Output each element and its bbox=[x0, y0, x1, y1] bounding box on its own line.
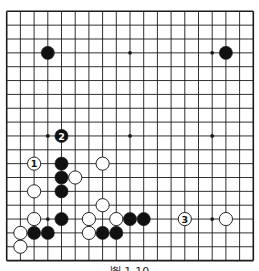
star-point bbox=[128, 134, 132, 138]
black-stone bbox=[219, 46, 232, 59]
black-stone bbox=[110, 226, 123, 239]
white-stone bbox=[219, 212, 232, 225]
black-stone bbox=[27, 226, 40, 239]
go-board: 213 bbox=[0, 0, 259, 265]
white-stone bbox=[96, 199, 109, 212]
white-stone-move-3: 3 bbox=[178, 212, 191, 225]
black-stone bbox=[123, 212, 136, 225]
black-stone bbox=[55, 185, 68, 198]
white-stone-move-1: 1 bbox=[27, 157, 40, 170]
white-stone bbox=[82, 226, 95, 239]
black-stone bbox=[137, 212, 150, 225]
black-stone bbox=[55, 157, 68, 170]
move-number: 3 bbox=[181, 214, 188, 225]
white-stone bbox=[110, 212, 123, 225]
black-stone bbox=[41, 46, 54, 59]
white-stone bbox=[27, 185, 40, 198]
star-point bbox=[210, 134, 214, 138]
white-stone bbox=[69, 171, 82, 184]
star-point bbox=[210, 51, 214, 55]
white-stone bbox=[82, 212, 95, 225]
white-stone bbox=[14, 226, 27, 239]
white-stone bbox=[96, 157, 109, 170]
move-number: 1 bbox=[31, 158, 38, 169]
star-point bbox=[128, 51, 132, 55]
black-stone bbox=[96, 226, 109, 239]
star-point bbox=[46, 217, 50, 221]
white-stone bbox=[27, 212, 40, 225]
star-point bbox=[46, 134, 50, 138]
star-point bbox=[210, 217, 214, 221]
move-number: 2 bbox=[58, 131, 65, 142]
figure-caption: 图 1-10 bbox=[0, 266, 259, 271]
white-stone bbox=[14, 240, 27, 253]
black-stone bbox=[55, 212, 68, 225]
black-stone-move-2: 2 bbox=[55, 129, 68, 142]
black-stone bbox=[41, 226, 54, 239]
black-stone bbox=[55, 171, 68, 184]
